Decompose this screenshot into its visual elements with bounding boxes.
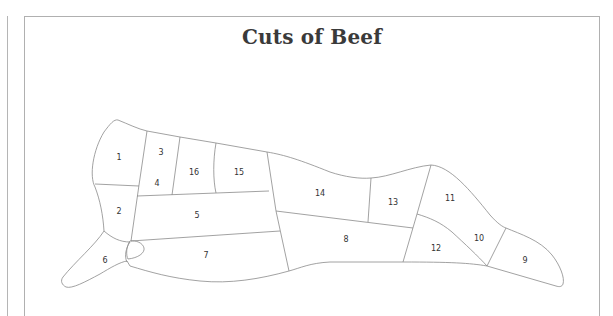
cut-label-1: 1 bbox=[116, 153, 121, 162]
cut-label-4: 4 bbox=[154, 179, 159, 188]
cut-label-5: 5 bbox=[194, 211, 199, 220]
cut-label-10: 10 bbox=[474, 234, 484, 243]
cut-label-8: 8 bbox=[343, 235, 348, 244]
cut-label-9: 9 bbox=[522, 256, 527, 265]
cut-label-6: 6 bbox=[102, 256, 107, 265]
carcass-outline bbox=[62, 120, 564, 287]
cut-label-11: 11 bbox=[445, 194, 455, 203]
cut-label-3: 3 bbox=[158, 148, 163, 157]
cut-label-7: 7 bbox=[203, 251, 208, 260]
cut-label-13: 13 bbox=[388, 198, 398, 207]
cut-label-14: 14 bbox=[315, 189, 325, 198]
cut-label-16: 16 bbox=[189, 168, 199, 177]
cut-label-12: 12 bbox=[431, 244, 441, 253]
cut-label-2: 2 bbox=[116, 207, 121, 216]
cut-label-15: 15 bbox=[234, 168, 244, 177]
